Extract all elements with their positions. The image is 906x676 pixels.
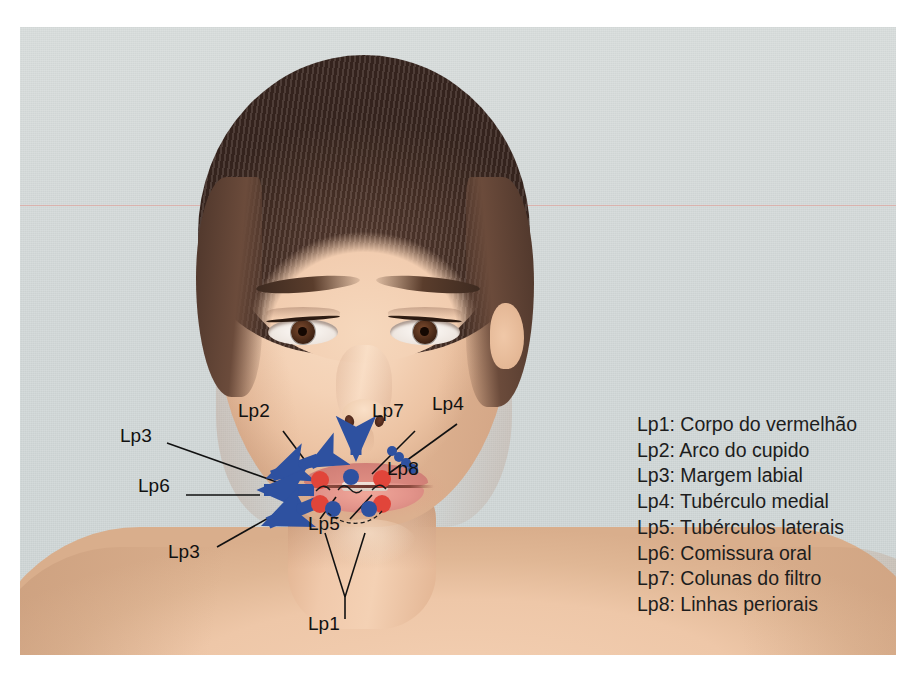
legend-item-lp5: Lp5: Tubérculos laterais — [637, 515, 887, 541]
face-label-lp3-lower: Lp3 — [168, 542, 200, 561]
face-label-lp7: Lp7 — [372, 401, 404, 420]
legend-item-lp7: Lp7: Colunas do filtro — [637, 566, 887, 592]
face-label-lp8: Lp8 — [387, 459, 419, 478]
face-label-lp2: Lp2 — [238, 401, 270, 420]
face-label-lp5: Lp5 — [308, 514, 340, 533]
face-label-lp1: Lp1 — [308, 614, 340, 633]
photograph-plate: Lp2 Lp7 Lp4 Lp3 Lp8 Lp6 Lp5 Lp3 Lp1 Lp1:… — [20, 27, 896, 655]
legend: Lp1: Corpo do vermelhão Lp2: Arco do cup… — [637, 412, 887, 618]
legend-item-lp3: Lp3: Margem labial — [637, 463, 887, 489]
face-label-lp3-upper: Lp3 — [120, 426, 152, 445]
face-label-lp4: Lp4 — [432, 394, 464, 413]
blue-arrows — [264, 427, 356, 523]
legend-item-lp6: Lp6: Comissura oral — [637, 541, 887, 567]
face-label-lp6: Lp6 — [138, 476, 170, 495]
legend-item-lp4: Lp4: Tubérculo medial — [637, 489, 887, 515]
figure-root: Lp2 Lp7 Lp4 Lp3 Lp8 Lp6 Lp5 Lp3 Lp1 Lp1:… — [0, 0, 906, 676]
legend-item-lp8: Lp8: Linhas periorais — [637, 592, 887, 618]
legend-item-lp1: Lp1: Corpo do vermelhão — [637, 412, 887, 438]
blue-landmark-dots — [325, 469, 377, 517]
legend-item-lp2: Lp2: Arco do cupido — [637, 438, 887, 464]
